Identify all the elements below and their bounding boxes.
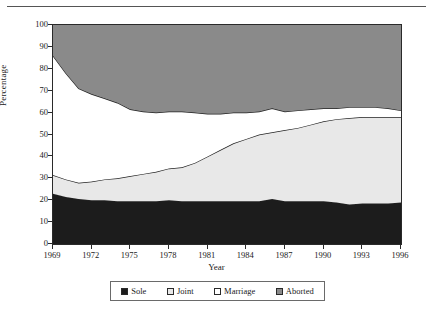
y-axis-tick-label: 30	[22, 173, 48, 182]
legend-item-sole[interactable]: Sole	[121, 287, 146, 296]
y-axis-tick-label: 0	[22, 239, 48, 248]
x-axis-tickmark	[168, 245, 169, 249]
legend-label: Sole	[131, 287, 146, 296]
x-axis-label: Year	[0, 262, 433, 272]
y-axis-tick-label: 90	[22, 42, 48, 51]
legend-swatch-icon	[276, 288, 283, 295]
x-axis-tick-label: 1990	[314, 251, 331, 260]
legend-swatch-icon	[214, 288, 221, 295]
legend-label: Joint	[177, 287, 194, 296]
y-axis-tick-label: 20	[22, 195, 48, 204]
x-axis-tickmark	[400, 245, 401, 249]
stacked-area-chart: Percentage 0102030405060708090100 196919…	[0, 14, 433, 264]
figure: Percentage 0102030405060708090100 196919…	[0, 0, 433, 321]
y-axis-tick-label: 40	[22, 151, 48, 160]
x-axis-tickmark	[91, 245, 92, 249]
x-axis-tickmark	[361, 245, 362, 249]
x-axis-tick-label: 1969	[44, 251, 61, 260]
legend-label: Aborted	[286, 287, 314, 296]
x-axis-tick-label: 1972	[82, 251, 99, 260]
plot-area	[52, 24, 402, 245]
legend-item-joint[interactable]: Joint	[167, 287, 194, 296]
x-axis-tick-label: 1978	[160, 251, 177, 260]
x-axis-tickmark	[129, 245, 130, 249]
chart-legend: SoleJointMarriageAborted	[110, 281, 325, 301]
legend-label: Marriage	[224, 287, 255, 296]
x-axis-ticks: 1969197219751978198119841987199019931996	[52, 245, 401, 263]
x-axis-tick-label: 1996	[392, 251, 409, 260]
y-axis-tick-labels: 0102030405060708090100	[16, 24, 48, 243]
y-axis-tick-label: 80	[22, 64, 48, 73]
x-axis-tickmark	[323, 245, 324, 249]
x-axis-tickmark	[245, 245, 246, 249]
x-axis-tick-label: 1987	[276, 251, 293, 260]
header-rule	[7, 6, 426, 7]
y-axis-tick-label: 70	[22, 86, 48, 95]
area-series-group	[53, 25, 401, 244]
x-axis-tick-label: 1984	[237, 251, 254, 260]
y-axis-tick-label: 10	[22, 217, 48, 226]
x-axis-tickmark	[52, 245, 53, 249]
y-axis-tick-label: 60	[22, 108, 48, 117]
legend-item-aborted[interactable]: Aborted	[276, 287, 314, 296]
legend-swatch-icon	[167, 288, 174, 295]
x-axis-tick-label: 1993	[353, 251, 370, 260]
x-axis-tick-label: 1975	[121, 251, 138, 260]
legend-item-marriage[interactable]: Marriage	[214, 287, 255, 296]
x-axis-tickmark	[284, 245, 285, 249]
y-axis-tick-label: 100	[22, 20, 48, 29]
y-axis-tick-label: 50	[22, 130, 48, 139]
legend-swatch-icon	[121, 288, 128, 295]
x-axis-tick-label: 1981	[198, 251, 215, 260]
x-axis-tickmark	[207, 245, 208, 249]
